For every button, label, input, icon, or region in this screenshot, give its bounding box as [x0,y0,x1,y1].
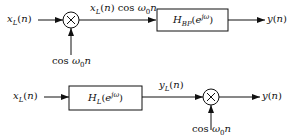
output-label-1: y(n) [267,14,287,24]
carrier-label-2: cos ω0n [192,124,231,137]
intermediate-label-1: xL(n) cos ω0n [90,3,157,16]
output-label-2: y(n) [262,91,282,101]
bandpass-filter-label: HBP(ejω) [173,14,213,28]
input-label-2: xL(n) [13,91,38,104]
input-label-1: xL(n) [7,14,32,27]
block-diagram [0,0,293,137]
intermediate-label-2: yL(n) [159,80,184,93]
carrier-label-1: cos ω0n [52,56,91,69]
lowpass-filter-label: HL(ejω) [88,92,123,106]
